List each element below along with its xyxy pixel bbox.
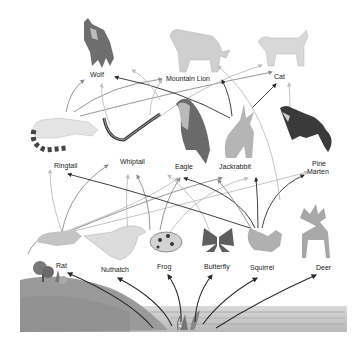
label-pine-marten-line2: Marten bbox=[307, 168, 329, 176]
label-pine-marten-line1: Pine bbox=[312, 160, 326, 168]
label-squirrel: Squirrel bbox=[250, 264, 274, 272]
ringtail-icon bbox=[33, 118, 98, 150]
label-cat: Cat bbox=[274, 73, 285, 81]
food-web-diagram: Wolf Mountain Lion Cat Ringtail Whiptail… bbox=[0, 0, 364, 353]
label-nuthatch: Nuthatch bbox=[101, 266, 129, 274]
butterfly-icon bbox=[202, 228, 234, 252]
landscape bbox=[20, 261, 347, 332]
cat-icon bbox=[258, 30, 308, 66]
wolf-icon bbox=[84, 18, 114, 68]
arrows-primary bbox=[50, 165, 308, 232]
rat-icon bbox=[28, 230, 82, 254]
squirrel-icon bbox=[248, 228, 282, 252]
label-mountain-lion: Mountain Lion bbox=[166, 75, 210, 83]
label-frog: Frog bbox=[157, 263, 171, 271]
deer-icon bbox=[300, 204, 330, 258]
label-whiptail: Whiptail bbox=[120, 158, 145, 166]
label-rat: Rat bbox=[56, 262, 67, 270]
frog-icon bbox=[150, 232, 182, 252]
label-eagle: Eagle bbox=[175, 163, 193, 171]
pine-marten-icon bbox=[280, 106, 332, 152]
mountain-lion-icon bbox=[170, 30, 230, 72]
eagle-icon bbox=[176, 99, 210, 164]
jackrabbit-icon bbox=[225, 104, 254, 158]
label-deer: Deer bbox=[316, 264, 331, 272]
label-wolf: Wolf bbox=[90, 71, 104, 79]
label-butterfly: Butterfly bbox=[204, 263, 230, 271]
label-jackrabbit: Jackrabbit bbox=[219, 163, 251, 171]
whiptail-icon bbox=[104, 114, 160, 140]
nuthatch-icon bbox=[84, 226, 146, 260]
label-ringtail: Ringtail bbox=[54, 162, 77, 170]
food-web-canvas bbox=[0, 0, 364, 353]
